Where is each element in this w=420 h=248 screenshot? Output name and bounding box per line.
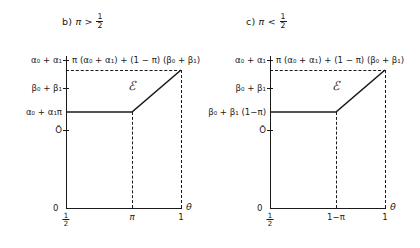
figure-two-panel-plot: b) π > 1 2 α₀ + α₁ β₀ + β₁ α₀ + α₁π Ō 0 xyxy=(0,0,420,248)
panel-c-xlabel-one: 1 xyxy=(382,212,387,222)
panel-c-curve xyxy=(210,0,420,248)
panel-b-xlabel-half-denominator: 2 xyxy=(63,219,69,227)
panel-c-xlabel-half-denominator: 2 xyxy=(267,219,273,227)
panel-b-xlabel-pi: π xyxy=(129,212,134,222)
panel-c-curve-label: ℰ xyxy=(332,78,340,93)
panel-c: c) π < 1 2 α₀ + α₁ β₀ + β₁ β₀ + β₁ (1−π)… xyxy=(210,0,420,248)
panel-c-xlabel-half-numerator: 1 xyxy=(267,212,273,219)
panel-b-xlabel-one: 1 xyxy=(178,212,183,222)
panel-c-xlabel-one-minus-pi: 1−π xyxy=(327,212,345,222)
panel-b-xlabel-half-numerator: 1 xyxy=(63,212,69,219)
panel-b-curve xyxy=(0,0,210,248)
panel-b-x-axis-name: θ xyxy=(186,201,192,212)
panel-c-xlabel-half: 1 2 xyxy=(266,212,273,227)
panel-c-plot-area: α₀ + α₁ β₀ + β₁ β₀ + β₁ (1−π) Ō 0 π (α₀… xyxy=(210,0,420,248)
panel-b-plot-area: α₀ + α₁ β₀ + β₁ α₀ + α₁π Ō 0 π (α₀ + α₁… xyxy=(0,0,210,248)
panel-b: b) π > 1 2 α₀ + α₁ β₀ + β₁ α₀ + α₁π Ō 0 xyxy=(0,0,210,248)
panel-b-curve-label: ℰ xyxy=(128,78,136,93)
panel-c-x-axis-name: θ xyxy=(390,201,396,212)
panel-b-xlabel-half: 1 2 xyxy=(62,212,69,227)
